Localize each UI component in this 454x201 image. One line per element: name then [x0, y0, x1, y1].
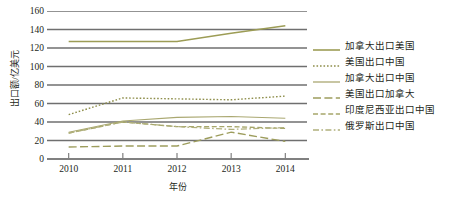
x-tick-label: 2011	[103, 163, 143, 175]
x-tick-label: 2014	[265, 163, 305, 175]
x-axis-tick-labels: 20102011201220132014	[47, 163, 309, 177]
y-tick-label: 160	[18, 6, 44, 16]
legend-swatch-icon	[313, 73, 340, 83]
y-tick-label: 60	[18, 99, 44, 109]
x-axis-ticks	[47, 153, 307, 158]
chart-legend: 加拿大出口美国美国出口中国加拿大出口中国美国出口加拿大印度尼西亚出口中国俄罗斯出…	[313, 38, 454, 134]
legend-item-label: 俄罗斯出口中国	[345, 121, 415, 132]
legend-item[interactable]: 加拿大出口美国	[313, 38, 454, 54]
legend-item-label: 印度尼西亚出口中国	[345, 105, 435, 116]
legend-item[interactable]: 俄罗斯出口中国	[313, 118, 454, 134]
series-line	[69, 116, 286, 132]
series-line	[69, 96, 286, 115]
legend-swatch-icon	[313, 89, 340, 99]
legend-item-label: 加拿大出口美国	[345, 41, 415, 52]
series-line	[69, 122, 286, 133]
y-tick-label: 120	[18, 43, 44, 53]
y-tick-label: 40	[18, 117, 44, 127]
x-tick-label: 2013	[211, 163, 251, 175]
legend-item-label: 加拿大出口中国	[345, 73, 415, 84]
legend-swatch-icon	[313, 105, 340, 115]
x-axis-title: 年份	[47, 180, 309, 193]
x-tick-label: 2010	[49, 163, 89, 175]
legend-item[interactable]: 美国出口加拿大	[313, 86, 454, 102]
x-axis-line	[47, 158, 309, 160]
x-tick-label: 2012	[157, 163, 197, 175]
plot-svg	[47, 11, 307, 159]
y-tick-label: 0	[18, 154, 44, 164]
y-axis-tick-labels: 020406080100120140160	[18, 6, 44, 164]
y-tick-label: 100	[18, 62, 44, 72]
legend-item[interactable]: 美国出口中国	[313, 54, 454, 70]
legend-swatch-icon	[313, 121, 340, 131]
legend-swatch-icon	[313, 57, 340, 67]
legend-item[interactable]: 印度尼西亚出口中国	[313, 102, 454, 118]
line-chart: 出口额/亿美元 020406080100120140160 2010201120…	[0, 0, 454, 201]
legend-item-label: 美国出口加拿大	[345, 89, 415, 100]
legend-swatch-icon	[313, 41, 340, 51]
y-tick-label: 20	[18, 136, 44, 146]
legend-item-label: 美国出口中国	[345, 57, 405, 68]
legend-item[interactable]: 加拿大出口中国	[313, 70, 454, 86]
y-tick-label: 140	[18, 25, 44, 35]
series-line	[69, 132, 286, 147]
y-tick-label: 80	[18, 80, 44, 90]
plot-area	[47, 11, 307, 159]
series-line	[69, 26, 286, 42]
